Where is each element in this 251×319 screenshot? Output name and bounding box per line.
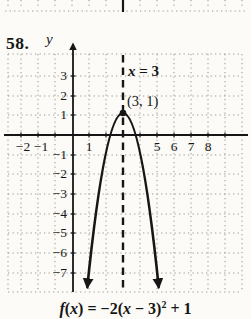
x-tick-label: 8	[205, 138, 212, 156]
x-tick-label: 7	[188, 138, 195, 156]
y-tick-label: −3	[22, 185, 67, 203]
y-axis-label: y	[46, 30, 53, 48]
function-caption: f(x) = −2(x − 3)2 + 1	[18, 296, 233, 314]
asymptote-eq: = 3	[136, 63, 160, 79]
y-tick-label: −4	[22, 205, 67, 223]
textbook-figure-page: 58. y x = 3 (3, 1) −2 −1 1 5 6 7 8 3 2 1…	[0, 0, 251, 319]
y-tick-label: −5	[22, 224, 67, 242]
problem-number: 58.	[6, 34, 29, 52]
y-tick-label: 1	[22, 106, 67, 124]
caption-x2: x	[123, 300, 131, 317]
asymptote-label: x = 3	[128, 62, 159, 80]
y-tick-label: 2	[22, 87, 67, 105]
x-tick-label: 1	[86, 138, 93, 156]
y-tick-label: −6	[22, 244, 67, 262]
previous-figure-edge	[5, 0, 246, 11]
y-tick-label: −2	[22, 165, 67, 183]
vertex-point-label: (3, 1)	[127, 92, 158, 110]
y-tick-label: −7	[22, 264, 67, 282]
x-tick-label: 6	[171, 138, 178, 156]
vertex-point	[120, 110, 127, 117]
asymptote-var: x	[128, 63, 136, 79]
x-tick-label: 5	[154, 138, 161, 156]
y-tick-label: −1	[22, 146, 67, 164]
y-tick-label: 3	[22, 67, 67, 85]
caption-x1: x	[70, 300, 78, 317]
